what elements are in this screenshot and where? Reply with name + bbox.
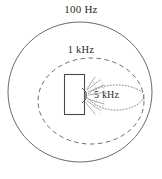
polar-curve-100hz [8,22,152,162]
loudspeaker-cabinet [65,75,85,115]
label-100hz: 100 Hz [0,3,162,15]
polar-pattern-svg [0,0,162,179]
speaker-directivity-figure: 100 Hz 1 kHz 5 kHz [0,0,162,179]
label-5khz: 5 kHz [94,89,119,100]
label-1khz: 1 kHz [0,44,162,55]
polar-curve-1khz [38,58,144,144]
